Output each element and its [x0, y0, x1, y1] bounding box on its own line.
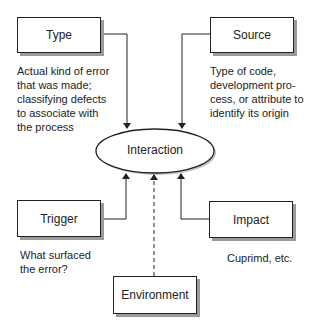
desc-line: the process	[17, 120, 109, 134]
node-source: Source	[210, 17, 294, 53]
node-trigger-label: Trigger	[40, 212, 78, 226]
interaction-label: Interaction	[96, 143, 214, 157]
desc-line: development pro-	[210, 78, 304, 92]
node-environment: Environment	[113, 276, 197, 314]
desc-line: the error?	[20, 262, 91, 276]
node-type-description: Actual kind of error that was made; clas…	[17, 64, 109, 134]
desc-line: identify its origin	[210, 106, 304, 120]
desc-line: classifying defects	[17, 92, 109, 106]
node-trigger-description: What surfaced the error?	[20, 248, 91, 276]
desc-line: What surfaced	[20, 248, 91, 262]
desc-line: Type of code,	[210, 64, 304, 78]
node-environment-label: Environment	[121, 288, 188, 302]
desc-line: Cuprimd, etc.	[227, 251, 292, 265]
desc-line: cess, or attribute to	[210, 92, 304, 106]
node-type-label: Type	[46, 28, 72, 42]
node-impact-label: Impact	[233, 213, 269, 227]
node-source-description: Type of code, development pro- cess, or …	[210, 64, 304, 120]
node-trigger: Trigger	[17, 200, 101, 237]
node-type: Type	[17, 17, 101, 53]
desc-line: Actual kind of error	[17, 64, 109, 78]
node-source-label: Source	[233, 28, 271, 42]
edge-source-interaction	[182, 34, 210, 128]
desc-line: that was made;	[17, 78, 109, 92]
edge-impact-interaction	[181, 174, 209, 219]
desc-line: to associate with	[17, 106, 109, 120]
node-impact: Impact	[209, 201, 293, 238]
node-impact-description: Cuprimd, etc.	[227, 251, 292, 265]
edge-trigger-interaction	[100, 174, 126, 219]
